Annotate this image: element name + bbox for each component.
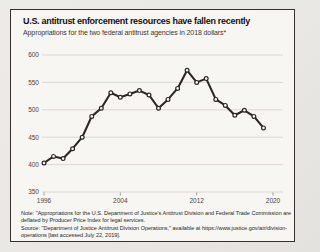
- y-axis-label: 450: [28, 134, 39, 141]
- x-axis-label: 2004: [113, 197, 128, 204]
- data-point-marker: [42, 161, 46, 165]
- figure-note: Note: "Appropriations for the U.S. Depar…: [21, 210, 293, 224]
- data-point-marker: [147, 93, 151, 97]
- x-axis-label: 2020: [266, 197, 281, 204]
- data-point-marker: [71, 147, 75, 151]
- y-axis-label: 400: [28, 161, 39, 168]
- y-axis-label: 350: [28, 188, 39, 195]
- data-point-marker: [166, 98, 170, 102]
- data-point-marker: [223, 104, 227, 108]
- y-axis-label: 600: [28, 51, 39, 58]
- data-point-marker: [118, 95, 122, 99]
- x-axis-label: 1996: [37, 197, 52, 204]
- y-axis-label: 550: [28, 79, 39, 86]
- data-point-marker: [138, 89, 142, 93]
- data-point-marker: [109, 91, 113, 95]
- data-point-marker: [195, 81, 199, 85]
- data-point-marker: [243, 108, 247, 112]
- data-point-marker: [214, 98, 218, 102]
- data-line: [44, 70, 264, 163]
- figure-source: Source: "Department of Justice Antitrust…: [21, 225, 293, 239]
- data-point-marker: [252, 115, 256, 119]
- data-point-marker: [176, 87, 180, 91]
- data-point-marker: [90, 115, 94, 119]
- data-point-marker: [233, 113, 237, 117]
- data-point-marker: [185, 68, 189, 72]
- data-point-marker: [157, 106, 161, 110]
- data-point-marker: [80, 135, 84, 139]
- data-point-marker: [128, 92, 132, 96]
- x-axis-label: 2012: [189, 197, 204, 204]
- data-point-marker: [204, 77, 208, 81]
- data-point-marker: [52, 155, 56, 159]
- data-point-marker: [99, 106, 103, 110]
- data-point-marker: [61, 157, 65, 161]
- line-chart: 3504004505005506001996200420122020: [11, 10, 296, 243]
- y-axis-label: 500: [28, 106, 39, 113]
- data-point-marker: [262, 126, 266, 130]
- figure-card: U.S. antitrust enforcement resources hav…: [10, 9, 295, 242]
